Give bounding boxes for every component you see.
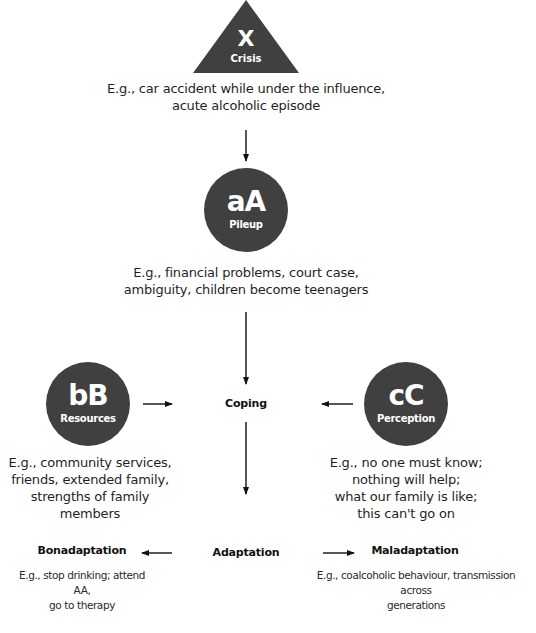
adaptation-label: Adaptation — [196, 546, 296, 559]
bonadaptation-label: Bonadaptation — [32, 544, 132, 557]
perception-desc-line: nothing will help; — [326, 471, 486, 488]
pileup-node: aA Pileup — [204, 168, 288, 252]
resources-symbol: bB — [68, 382, 107, 410]
perception-node: cC Perception — [364, 362, 448, 446]
pileup-description: E.g., financial problems, court case, am… — [106, 264, 386, 298]
bonadaptation-desc-line: E.g., stop drinking; attend AA, — [12, 568, 152, 598]
pileup-label: Pileup — [229, 218, 262, 232]
perception-description: E.g., no one must know; nothing will hel… — [326, 454, 486, 522]
crisis-label: Crisis — [193, 53, 299, 65]
resources-desc-line: E.g., community services, — [0, 454, 180, 471]
crisis-node: X Crisis — [193, 0, 299, 73]
coping-label: Coping — [196, 397, 296, 410]
bonadaptation-description: E.g., stop drinking; attend AA, go to th… — [12, 568, 152, 613]
perception-symbol: cC — [388, 382, 423, 410]
maladaptation-desc-line: E.g., coalcoholic behaviour, transmissio… — [316, 568, 516, 598]
maladaptation-description: E.g., coalcoholic behaviour, transmissio… — [316, 568, 516, 613]
bonadaptation-desc-line: go to therapy — [12, 598, 152, 613]
crisis-description: E.g., car accident while under the influ… — [96, 80, 396, 114]
perception-desc-line: E.g., no one must know; — [326, 454, 486, 471]
perception-desc-line: what our family is like; — [326, 488, 486, 505]
perception-desc-line: this can't go on — [326, 505, 486, 522]
resources-desc-line: friends, extended family, — [0, 471, 180, 488]
maladaptation-label: Maladaptation — [360, 544, 470, 557]
resources-desc-line: strengths of family members — [0, 488, 180, 522]
perception-label: Perception — [377, 412, 435, 426]
crisis-desc-line: E.g., car accident while under the influ… — [96, 80, 396, 97]
pileup-symbol: aA — [227, 188, 266, 216]
pileup-desc-line: ambiguity, children become teenagers — [106, 281, 386, 298]
resources-label: Resources — [60, 412, 115, 426]
pileup-desc-line: E.g., financial problems, court case, — [106, 264, 386, 281]
maladaptation-desc-line: generations — [316, 598, 516, 613]
crisis-symbol: X — [193, 28, 299, 50]
resources-node: bB Resources — [46, 362, 130, 446]
crisis-desc-line: acute alcoholic episode — [96, 97, 396, 114]
resources-description: E.g., community services, friends, exten… — [0, 454, 180, 522]
